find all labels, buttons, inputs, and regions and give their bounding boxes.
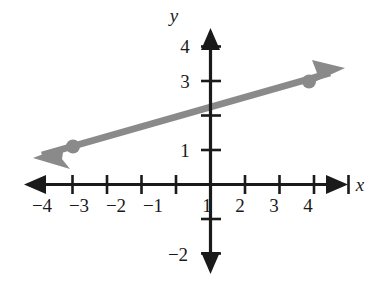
data-point-left [66, 140, 80, 154]
data-point-right [302, 75, 316, 89]
y-axis-group [201, 28, 221, 274]
y-tick-labels-group: 4 3 1 −2 [168, 36, 190, 265]
x-tick-label--2: −2 [106, 195, 126, 216]
x-tick-label-1: 1 [202, 195, 212, 216]
x-tick-labels-group: −4 −3 −2 −1 1 2 3 4 [32, 195, 313, 216]
x-tick-label-3: 3 [269, 195, 279, 216]
y-tick-label-1: 1 [180, 140, 190, 161]
graph-container: −4 −3 −2 −1 1 2 3 4 4 3 1 −2 x y [0, 0, 372, 283]
y-tick-label-4: 4 [180, 36, 190, 57]
x-tick-label--1: −1 [143, 195, 163, 216]
x-tick-label-2: 2 [235, 195, 245, 216]
x-axis-group [24, 175, 349, 194]
y-tick-label-3: 3 [180, 71, 190, 92]
coordinate-plane-figure: −4 −3 −2 −1 1 2 3 4 4 3 1 −2 x y [0, 0, 372, 283]
x-tick-label--4: −4 [32, 195, 53, 216]
y-axis-label: y [168, 5, 179, 26]
x-axis-label: x [355, 174, 365, 195]
y-axis-arrow-down-icon [201, 252, 220, 274]
x-axis-arrow-right-icon [326, 175, 348, 194]
x-tick-label--3: −3 [69, 195, 89, 216]
x-axis-arrow-left-icon [24, 175, 46, 194]
x-tick-label-4: 4 [303, 195, 313, 216]
y-tick-label--2: −2 [168, 244, 188, 265]
